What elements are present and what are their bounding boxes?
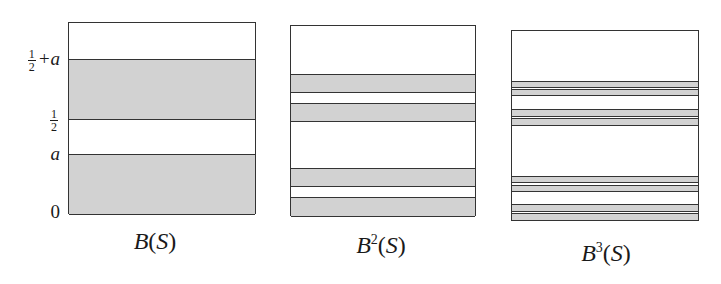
shaded-band [512, 81, 698, 88]
panel-B3 [511, 30, 699, 221]
y-axis-label-a: a [51, 144, 61, 163]
shaded-band [291, 197, 475, 217]
shaded-band [291, 103, 475, 122]
caption-argument: S [611, 240, 623, 266]
open-paren: ( [603, 240, 611, 266]
shaded-band [512, 185, 698, 192]
shaded-band [512, 118, 698, 126]
fraction-denominator: 2 [29, 61, 35, 73]
open-paren: ( [148, 228, 156, 254]
shaded-band [69, 154, 255, 215]
panel-caption-B2: B2(S) [356, 232, 406, 259]
shaded-band [291, 74, 475, 93]
panel-B2 [290, 25, 476, 216]
open-paren: ( [378, 232, 386, 258]
shaded-band [512, 213, 698, 221]
caption-base: B [581, 240, 596, 266]
close-paren: ) [398, 232, 406, 258]
label-suffix: +a [38, 48, 60, 69]
caption-argument: S [386, 232, 398, 258]
caption-exponent: 2 [371, 232, 378, 247]
label-text: 0 [51, 201, 61, 222]
panel-caption-B1: B(S) [134, 228, 177, 255]
shaded-band [69, 59, 255, 120]
fraction: 12 [50, 108, 58, 133]
fraction: 12 [28, 48, 36, 73]
shaded-band [512, 89, 698, 96]
y-axis-label-zero: 0 [51, 202, 61, 221]
shaded-band [291, 168, 475, 187]
panel-caption-B3: B3(S) [581, 240, 631, 267]
shaded-band [512, 204, 698, 212]
y-axis-label-half-plus-a: 12+a [28, 48, 60, 73]
label-text: a [51, 143, 61, 164]
close-paren: ) [623, 240, 631, 266]
panel-B1 [68, 22, 256, 214]
caption-base: B [356, 232, 371, 258]
caption-argument: S [156, 228, 168, 254]
shaded-band [512, 176, 698, 183]
shaded-band [512, 109, 698, 117]
fraction-denominator: 2 [51, 121, 57, 133]
y-axis-label-half: 12 [50, 108, 60, 133]
caption-exponent: 3 [596, 240, 603, 255]
caption-base: B [134, 228, 149, 254]
close-paren: ) [168, 228, 176, 254]
